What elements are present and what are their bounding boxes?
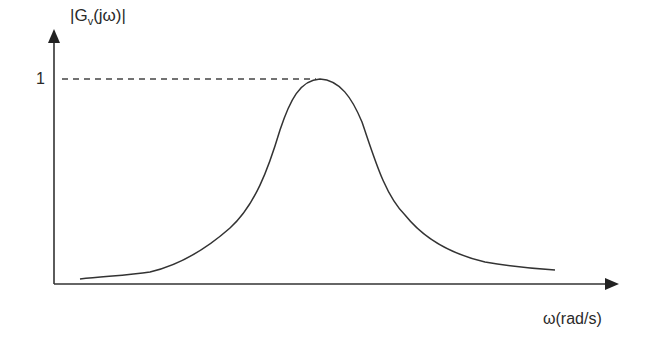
x-axis-arrow-icon (605, 278, 619, 290)
y-axis-label: |Gv(jω)| (70, 7, 126, 27)
y-tick-label: 1 (36, 71, 45, 87)
x-axis-label: ω(rad/s) (543, 311, 602, 327)
bandpass-magnitude-plot (0, 0, 665, 342)
y-axis-arrow-icon (48, 29, 60, 43)
magnitude-curve (80, 79, 555, 279)
